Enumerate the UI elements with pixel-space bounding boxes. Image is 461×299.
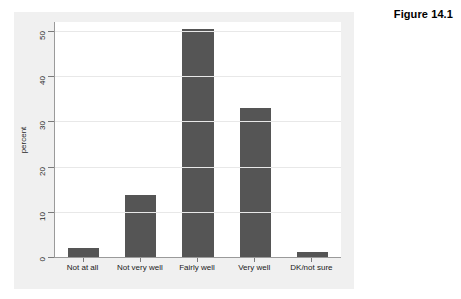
x-tick-mark bbox=[140, 258, 141, 262]
y-tick-label: 10 bbox=[39, 212, 47, 221]
x-tick-label: Not very well bbox=[117, 264, 163, 273]
y-tick-label: 0 bbox=[39, 257, 47, 261]
x-tick-label: Not at all bbox=[67, 264, 99, 273]
x-tick-label: DK/not sure bbox=[290, 264, 332, 273]
bars-layer bbox=[55, 22, 341, 257]
gridline bbox=[55, 167, 341, 168]
y-axis-title: percent bbox=[20, 127, 28, 154]
figure-caption: Figure 14.1 bbox=[394, 8, 453, 20]
gridline bbox=[55, 121, 341, 122]
x-tick-label: Very well bbox=[238, 264, 270, 273]
x-tick-mark bbox=[197, 258, 198, 262]
bar bbox=[240, 108, 271, 257]
x-tick-label: Fairly well bbox=[179, 264, 215, 273]
x-axis: Not at allNot very wellFairly wellVery w… bbox=[54, 258, 341, 288]
plot-area bbox=[54, 22, 341, 258]
gridline bbox=[55, 212, 341, 213]
x-tick-mark bbox=[254, 258, 255, 262]
y-tick-label: 40 bbox=[39, 76, 47, 85]
x-tick-mark bbox=[83, 258, 84, 262]
bar bbox=[297, 252, 328, 257]
gridline bbox=[55, 76, 341, 77]
gridline bbox=[55, 31, 341, 32]
y-axis: percent 01020304050 bbox=[0, 0, 54, 299]
y-tick-label: 50 bbox=[39, 31, 47, 40]
bar bbox=[125, 195, 156, 257]
y-tick-label: 20 bbox=[39, 167, 47, 176]
x-tick-mark bbox=[311, 258, 312, 262]
bar bbox=[182, 29, 213, 257]
bar bbox=[68, 248, 99, 257]
y-tick-label: 30 bbox=[39, 121, 47, 130]
